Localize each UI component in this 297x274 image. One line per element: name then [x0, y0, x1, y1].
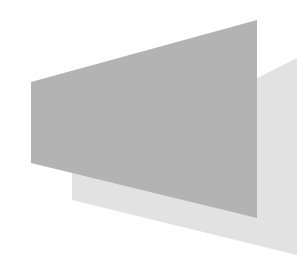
front-panel-shape [31, 20, 257, 218]
trapezoid-graphic [0, 0, 297, 274]
